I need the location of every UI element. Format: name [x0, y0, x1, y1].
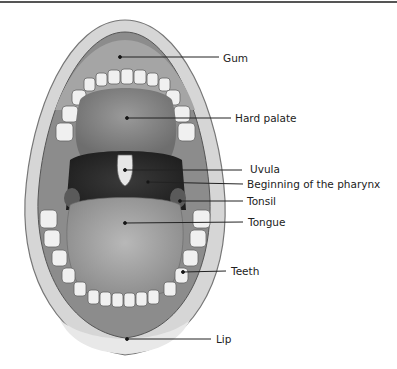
label-teeth: Teeth: [231, 265, 259, 277]
label-gum: Gum: [223, 52, 248, 64]
label-pharynx: Beginning of the pharynx: [247, 178, 380, 190]
label-lip: Lip: [216, 333, 231, 345]
label-uvula: Uvula: [250, 163, 280, 175]
label-tongue: Tongue: [248, 216, 286, 228]
label-hard-palate: Hard palate: [235, 112, 297, 124]
label-tonsil: Tonsil: [247, 195, 276, 207]
